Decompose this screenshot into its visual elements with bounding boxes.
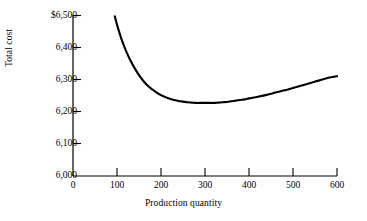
total-cost-curve bbox=[115, 16, 337, 103]
plot-area bbox=[0, 0, 367, 221]
x-tick-marks bbox=[117, 168, 337, 176]
y-tick-marks bbox=[73, 16, 81, 144]
chart-figure: Total cost $6,500 6,400 6,300 6,200 6,10… bbox=[0, 0, 367, 221]
